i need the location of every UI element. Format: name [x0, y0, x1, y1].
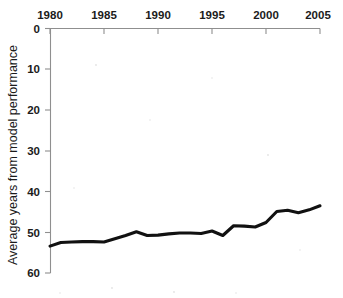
x-tick-label-1985: 1985 — [91, 9, 117, 21]
x-tick-label-2005: 2005 — [305, 9, 331, 21]
x-tick-label-2000: 2000 — [253, 9, 279, 21]
y-tick-label-0: 0 — [34, 23, 40, 35]
x-tick-label-1980: 1980 — [37, 9, 63, 21]
y-tick-label-10: 10 — [27, 63, 40, 75]
data-series-group — [50, 206, 320, 246]
y-tick-label-60: 60 — [27, 267, 40, 279]
x-axis: 1980 1985 1990 1995 2000 2005 — [37, 9, 331, 34]
y-tick-label-20: 20 — [27, 104, 40, 116]
y-axis-title: Average years from model performance — [6, 45, 20, 265]
x-tick-label-1990: 1990 — [145, 9, 171, 21]
y-tick-label-40: 40 — [27, 186, 40, 198]
y-axis: 0 10 20 30 40 50 60 Average years from m… — [6, 23, 51, 280]
line-chart: 1980 1985 1990 1995 2000 2005 0 10 20 30… — [0, 0, 343, 298]
scan-artifacts — [59, 64, 301, 294]
x-tick-label-1995: 1995 — [199, 9, 225, 21]
chart-container: 1980 1985 1990 1995 2000 2005 0 10 20 30… — [0, 0, 343, 298]
data-line-average-years — [50, 206, 320, 246]
y-tick-label-30: 30 — [27, 145, 40, 157]
y-tick-label-50: 50 — [27, 227, 40, 239]
